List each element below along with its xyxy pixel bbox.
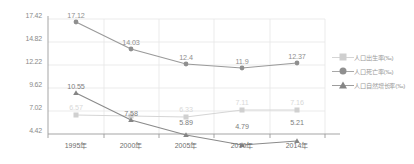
legend-item-death-rate[interactable]: 人口死亡率(‰) bbox=[332, 64, 414, 78]
y-tick-label: 9.62 bbox=[8, 81, 42, 88]
square-marker-icon bbox=[332, 51, 354, 63]
data-label-death-2014: 12.37 bbox=[277, 52, 317, 61]
data-label-birth-1995: 6.57 bbox=[56, 103, 96, 112]
data-label-growth-2005: 5.89 bbox=[166, 118, 206, 127]
triangle-marker-icon bbox=[332, 79, 354, 91]
data-label-birth-2010: 7.11 bbox=[222, 98, 262, 107]
y-tick-label: 17.42 bbox=[8, 12, 42, 19]
data-label-death-2005: 12.4 bbox=[166, 53, 206, 62]
x-tick-label: 2005年 bbox=[162, 140, 210, 150]
data-label-death-2000: 14.03 bbox=[111, 38, 151, 47]
y-tick-label: 12.22 bbox=[8, 58, 42, 65]
data-label-birth-2005: 6.33 bbox=[166, 105, 206, 114]
y-tick-label: 14.82 bbox=[8, 35, 42, 42]
legend-label-natural-growth-rate: 人口自然增长率(‰) bbox=[354, 81, 405, 90]
data-label-death-1995: 17.12 bbox=[56, 11, 96, 20]
chart-legend: 人口出生率(‰) 人口死亡率(‰) 人口自然增长率(‰) bbox=[332, 50, 414, 92]
legend-label-death-rate: 人口死亡率(‰) bbox=[354, 67, 394, 76]
x-tick-label: 2000年 bbox=[107, 140, 155, 150]
data-label-growth-2014: 5.21 bbox=[277, 118, 317, 127]
data-label-death-2010: 11.9 bbox=[222, 57, 262, 66]
legend-label-birth-rate: 人口出生率(‰) bbox=[354, 53, 394, 62]
data-label-growth-2000: 7.58 bbox=[111, 109, 151, 118]
y-tick-label: 4.42 bbox=[8, 127, 42, 134]
legend-item-birth-rate[interactable]: 人口出生率(‰) bbox=[332, 50, 414, 64]
line-chart: 17.42 14.82 12.22 9.62 7.02 4.42 1995年 2… bbox=[0, 0, 414, 164]
x-tick-label: 2010年 bbox=[218, 140, 266, 150]
circle-marker-icon bbox=[332, 65, 354, 77]
x-tick-label: 2014年 bbox=[273, 140, 321, 150]
y-tick-label: 7.02 bbox=[8, 104, 42, 111]
data-label-birth-2014: 7.16 bbox=[277, 98, 317, 107]
data-label-growth-2010: 4.79 bbox=[222, 122, 262, 131]
legend-item-natural-growth-rate[interactable]: 人口自然增长率(‰) bbox=[332, 78, 414, 92]
x-tick-label: 1995年 bbox=[52, 140, 100, 150]
series-death-rate bbox=[74, 20, 300, 71]
data-label-growth-1995: 10.55 bbox=[56, 82, 96, 91]
